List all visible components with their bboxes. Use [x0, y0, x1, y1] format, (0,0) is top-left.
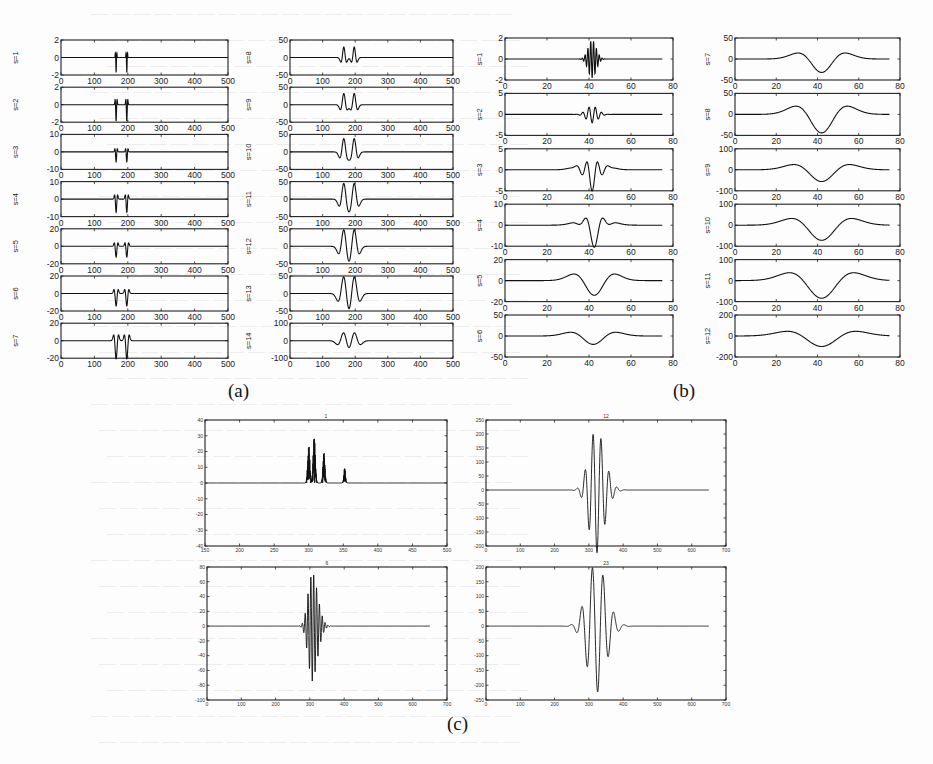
subplot-a-s-10: 0100200300400500-50050s=10: [244, 129, 460, 180]
x-tick-label: 20: [542, 136, 552, 146]
subplot-ylabel: s=4: [475, 219, 484, 231]
y-tick-label: -60: [198, 667, 205, 673]
x-tick-label: 0: [59, 76, 64, 86]
y-tick-label: -250: [474, 697, 484, 703]
subplot-a-s-5: 0100200300400500-20020s=5: [11, 224, 235, 275]
y-tick-label: -50: [491, 352, 504, 362]
x-tick-label: 20: [542, 358, 552, 368]
x-tick-label: 100: [87, 359, 101, 369]
y-tick-label: 50: [279, 35, 289, 45]
subplot-a-s-3: 0100200300400500-10010s=3: [11, 129, 235, 180]
y-tick-label: 100: [274, 318, 288, 328]
y-tick-label: 0: [728, 165, 733, 175]
x-tick-label: 200: [348, 218, 362, 228]
waveform-trace: [735, 53, 889, 72]
x-tick-label: 100: [316, 76, 330, 86]
x-tick-label: 400: [188, 218, 202, 228]
x-tick-label: 400: [413, 76, 427, 86]
waveform-trace: [207, 575, 430, 681]
subplot-a-s-2: 0100200300400500-202s=2: [11, 82, 235, 133]
subplot-a-s-14: 0100200300400500-1000100s=14: [244, 318, 460, 369]
x-tick-label: 350: [339, 547, 348, 553]
subplot-a-s-11: 0100200300400500-50050s=11: [244, 177, 460, 228]
subplot-b-s-1: 020406080-202s=1: [475, 33, 678, 91]
x-tick-label: 300: [305, 547, 314, 553]
x-tick-label: 500: [446, 359, 460, 369]
y-tick-label: 10: [494, 199, 504, 209]
subplot-title: 6: [326, 560, 329, 566]
subplot-ylabel: s=5: [11, 240, 20, 252]
y-tick-label: -50: [477, 501, 484, 507]
x-tick-label: 20: [542, 247, 552, 257]
x-tick-label: 0: [288, 359, 293, 369]
y-tick-label: -50: [276, 70, 289, 80]
x-tick-label: 300: [154, 76, 168, 86]
waveform-trace: [505, 274, 662, 295]
y-tick-label: 0: [54, 194, 59, 204]
y-tick-label: 50: [279, 224, 289, 234]
y-tick-label: 5: [498, 88, 503, 98]
x-tick-label: 200: [271, 701, 280, 707]
subplot-ylabel: s=13: [244, 285, 253, 301]
y-tick-label: 20: [50, 318, 60, 328]
x-tick-label: 100: [316, 123, 330, 133]
x-tick-label: 200: [348, 123, 362, 133]
y-tick-label: -20: [47, 259, 60, 269]
y-tick-label: 2: [54, 35, 59, 45]
x-tick-label: 0: [503, 192, 508, 202]
y-tick-label: 50: [724, 33, 734, 43]
y-tick-label: 40: [197, 417, 203, 423]
subplot-b-s-12: 020406080-2000200s=12: [703, 310, 905, 368]
y-tick-label: -50: [721, 75, 734, 85]
x-tick-label: 0: [288, 265, 293, 275]
y-tick-label: 20: [50, 224, 60, 234]
x-tick-label: 100: [516, 547, 525, 553]
x-tick-label: 0: [288, 218, 293, 228]
x-tick-label: 60: [626, 358, 636, 368]
y-tick-label: 0: [54, 147, 59, 157]
x-tick-label: 40: [813, 136, 823, 146]
x-tick-label: 40: [584, 303, 594, 313]
x-tick-label: 80: [895, 136, 905, 146]
waveform-trace: [61, 53, 228, 73]
x-tick-label: 40: [813, 247, 823, 257]
y-tick-label: 0: [283, 100, 288, 110]
x-tick-label: 500: [446, 76, 460, 86]
subplot-ylabel: s=6: [11, 287, 20, 299]
x-tick-label: 200: [121, 312, 135, 322]
y-tick-label: 20: [199, 608, 205, 614]
x-tick-label: 400: [413, 123, 427, 133]
x-tick-label: 60: [854, 192, 864, 202]
x-tick-label: 200: [348, 76, 362, 86]
x-tick-label: 100: [316, 218, 330, 228]
y-tick-label: 0: [202, 623, 205, 629]
x-tick-label: 500: [374, 701, 383, 707]
x-tick-label: 300: [381, 265, 395, 275]
x-tick-label: 700: [443, 701, 452, 707]
waveform-trace: [61, 195, 228, 212]
subplot-ylabel: s=11: [244, 191, 253, 207]
x-tick-label: 0: [733, 358, 738, 368]
x-tick-label: 0: [288, 123, 293, 133]
waveform-trace: [61, 100, 228, 122]
y-tick-label: 40: [199, 593, 205, 599]
subplot-ylabel: s=6: [475, 330, 484, 342]
subplot-ylabel: s=12: [703, 328, 712, 344]
waveform-trace: [61, 335, 228, 359]
x-tick-label: 400: [413, 312, 427, 322]
y-tick-label: -10: [47, 164, 60, 174]
x-tick-label: 0: [503, 136, 508, 146]
subplot-b-s-4: 020406080-10010s=4: [475, 199, 678, 257]
y-tick-label: 2: [498, 33, 503, 43]
x-tick-label: 0: [503, 303, 508, 313]
x-tick-label: 0: [485, 547, 488, 553]
x-tick-label: 200: [348, 265, 362, 275]
waveform-trace: [61, 149, 228, 162]
x-tick-label: 500: [221, 170, 235, 180]
subplot-ylabel: s=10: [244, 144, 253, 160]
x-tick-label: 200: [235, 547, 244, 553]
y-tick-label: 50: [494, 310, 504, 320]
x-tick-label: 600: [688, 547, 697, 553]
x-tick-label: 100: [87, 170, 101, 180]
subplot-ylabel: s=9: [703, 164, 712, 176]
